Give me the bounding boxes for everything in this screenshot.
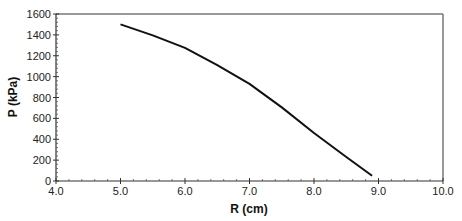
y-tick-label: 800 bbox=[33, 92, 51, 104]
y-tick-label: 1400 bbox=[27, 29, 51, 41]
line-chart: 02004006008001000120014001600 4.05.06.07… bbox=[0, 0, 462, 221]
y-tick-label: 200 bbox=[33, 154, 51, 166]
x-tick-label: 4.0 bbox=[48, 185, 63, 197]
curve-line bbox=[121, 24, 373, 175]
x-axis-title: R (cm) bbox=[230, 202, 267, 216]
y-tick-label: 1600 bbox=[27, 8, 51, 20]
data-series bbox=[121, 24, 373, 175]
y-tick-label: 1000 bbox=[27, 71, 51, 83]
x-tick-label: 7.0 bbox=[242, 185, 257, 197]
x-tick-label: 9.0 bbox=[371, 185, 386, 197]
x-tick-label: 6.0 bbox=[177, 185, 192, 197]
y-tick-label: 1200 bbox=[27, 50, 51, 62]
y-axis-title: P (kPa) bbox=[6, 77, 20, 117]
y-axis: 02004006008001000120014001600 bbox=[27, 8, 59, 187]
x-tick-label: 5.0 bbox=[113, 185, 128, 197]
y-tick-label: 400 bbox=[33, 133, 51, 145]
x-tick-label: 10.0 bbox=[432, 185, 453, 197]
plot-frame bbox=[56, 14, 443, 181]
x-tick-label: 8.0 bbox=[306, 185, 321, 197]
y-tick-label: 600 bbox=[33, 112, 51, 124]
